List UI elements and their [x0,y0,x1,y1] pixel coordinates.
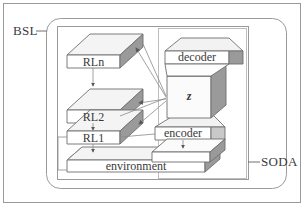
block-label-environment: environment [67,159,205,174]
block-label-encoder: encoder [155,126,211,141]
soda-frame-label: SODA [261,154,298,170]
encoder-side-face [211,127,225,140]
block-label-rln: RLn [67,55,120,70]
block-label-latent: z [167,89,211,104]
block-label-rl2: RL2 [67,110,120,125]
decoder-side-face [229,51,243,64]
block-label-rl1: RL1 [67,131,120,146]
diagram-canvas: BSL SODA RLn RL2 RL1 environment decoder… [0,0,304,206]
connector-rln-right [143,44,166,96]
diagram-svg [0,0,304,206]
block-label-decoder: decoder [165,50,229,65]
bsl-frame-label: BSL [13,23,38,39]
connector-rl1-left-rail [58,137,67,170]
